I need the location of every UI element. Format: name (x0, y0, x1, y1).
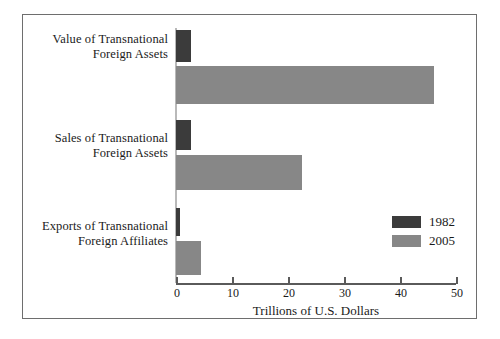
x-tick-label-30: 30 (339, 286, 351, 301)
x-tick-0 (176, 277, 178, 284)
x-tick-30 (344, 277, 346, 284)
x-axis-line (176, 283, 456, 285)
legend-label-1982: 1982 (429, 214, 455, 230)
x-tick-20 (288, 277, 290, 284)
chart-plot-area: Value of Transnational Foreign Assets Sa… (0, 0, 500, 339)
bar-sales-1982 (176, 120, 191, 150)
chart-legend: 1982 2005 (392, 212, 455, 250)
category-label-sales-of-transnational-foreign-assets: Sales of Transnational Foreign Assets (55, 131, 168, 161)
x-tick-50 (456, 277, 458, 284)
x-tick-40 (400, 277, 402, 284)
x-tick-label-40: 40 (395, 286, 407, 301)
legend-swatch-1982-icon (392, 216, 421, 228)
category-label-exports-of-transnational-foreign-affiliates: Exports of Transnational Foreign Affilia… (42, 219, 168, 249)
x-tick-10 (232, 277, 234, 284)
legend-swatch-2005-icon (392, 235, 421, 247)
x-tick-label-20: 20 (283, 286, 295, 301)
legend-item-2005: 2005 (392, 231, 455, 250)
bar-exports-1982 (176, 208, 180, 236)
bar-sales-2005 (176, 155, 302, 190)
x-axis-title: Trillions of U.S. Dollars (176, 303, 456, 319)
x-tick-label-50: 50 (451, 286, 463, 301)
x-tick-label-0: 0 (174, 286, 180, 301)
category-label-value-of-transnational-foreign-assets: Value of Transnational Foreign Assets (53, 32, 168, 62)
bar-exports-2005 (176, 241, 201, 275)
bar-value-2005 (176, 66, 434, 104)
chart-figure: Value of Transnational Foreign Assets Sa… (0, 0, 500, 339)
bar-value-1982 (176, 30, 191, 62)
legend-label-2005: 2005 (429, 233, 455, 249)
x-tick-label-10: 10 (227, 286, 239, 301)
legend-item-1982: 1982 (392, 212, 455, 231)
